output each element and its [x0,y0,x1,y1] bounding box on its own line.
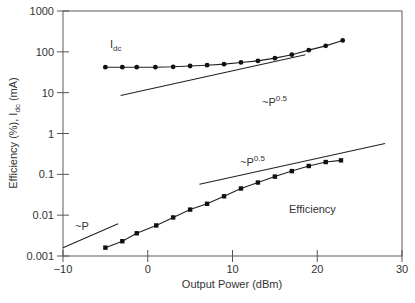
y-tick-label: 10 [42,87,54,99]
x-tick-label: 10 [226,263,238,275]
data-point [120,239,124,243]
y-tick-label: 1 [48,128,54,140]
data-point [239,60,244,65]
y-tick-label: 100 [36,46,54,58]
data-point [222,194,226,198]
data-point [171,215,175,219]
data-point [154,223,158,227]
reference-lines [63,55,385,248]
x-tick-label: 0 [145,263,151,275]
x-axis-ticks: −100102030 [54,250,408,275]
data-point [205,63,210,68]
idc-label: Idc [110,38,122,53]
idc-slope-label: ~P0.5 [262,94,287,108]
y-tick-label: 1000 [30,5,54,17]
efficiency-label: Efficiency [289,203,336,215]
data-point [222,62,227,67]
data-point [153,65,158,70]
data-point [239,186,243,190]
data-point [307,164,311,168]
data-point [103,65,108,70]
data-point [134,65,139,70]
efficiency-slope-label: ~P0.5 [240,154,265,168]
y-axis-label: Efficiency (%), Idc (mA) [7,77,22,189]
data-point [339,158,343,162]
data-point [324,160,328,164]
slope-reference-line [121,55,306,96]
linear-slope-label: ~P [75,220,89,232]
data-point [188,64,193,69]
data-point [340,38,345,43]
data-point [306,48,311,53]
y-tick-label: 0.1 [39,168,54,180]
x-tick-label: 20 [311,263,323,275]
data-point [205,202,209,206]
data-point [135,231,139,235]
data-point [323,43,328,48]
slope-reference-line [199,143,385,184]
y-tick-label: 0.001 [26,250,54,262]
slope-reference-line [63,224,118,248]
data-series [103,38,345,250]
data-point [256,180,260,184]
data-point [103,245,107,249]
y-tick-label: 0.01 [33,209,54,221]
x-axis-label: Output Power (dBm) [182,278,282,290]
data-point [171,64,176,69]
efficiency-idc-chart: 0.0010.010.11101001000 −100102030 Output… [0,0,415,303]
data-point [290,169,294,173]
data-point [289,52,294,57]
data-point [256,58,261,63]
data-point [272,56,277,61]
x-tick-label: 30 [396,263,408,275]
x-tick-label: −10 [54,263,73,275]
data-point [273,174,277,178]
data-point [188,207,192,211]
data-point [120,65,125,70]
